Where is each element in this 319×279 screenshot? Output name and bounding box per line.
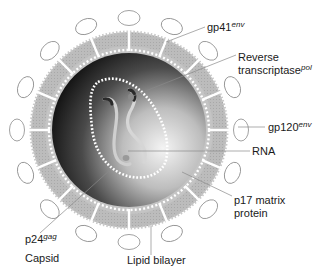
gp120-knob — [118, 11, 140, 26]
gp120-knob — [234, 119, 249, 141]
label-p17-line2: protein — [234, 207, 268, 219]
gp120-knob — [73, 222, 99, 244]
gp120-knob — [14, 160, 36, 186]
hiv-virion-diagram: gp41env Reverse transcriptasepol gp120en… — [0, 0, 319, 279]
label-p24: p24gag — [25, 232, 57, 245]
reverse-transcriptase-blob — [123, 155, 130, 161]
label-gp120: gp120env — [268, 120, 312, 133]
label-lipid-bilayer: Lipid bilayer — [127, 254, 186, 266]
gp120-knob — [73, 15, 99, 37]
label-reverse-transcriptase-line2: transcriptasepol — [238, 63, 312, 76]
label-gp41: gp41env — [207, 20, 245, 33]
gp120-knob — [221, 160, 243, 186]
gp120-knob — [118, 235, 140, 250]
label-capsid: Capsid — [25, 252, 59, 264]
label-p17-line1: p17 matrix — [234, 194, 286, 206]
gp120-knob — [159, 15, 185, 37]
reverse-transcriptase-blob — [128, 93, 134, 100]
gp120-knob — [221, 74, 243, 100]
diagram-canvas: gp41env Reverse transcriptasepol gp120en… — [0, 0, 319, 279]
label-rna: RNA — [252, 145, 276, 157]
gp120-knob — [14, 74, 36, 100]
gp120-knob — [10, 119, 25, 141]
gp120-knob — [159, 222, 185, 244]
label-reverse-transcriptase-line1: Reverse — [238, 51, 279, 63]
